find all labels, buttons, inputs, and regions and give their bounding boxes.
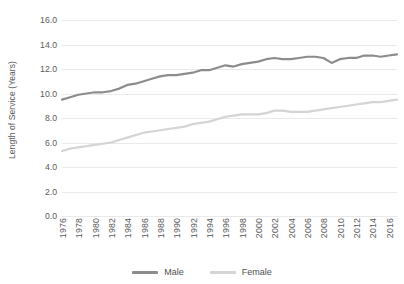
x-axis-tick-label: 1984 [123,218,133,238]
x-axis-tick-label: 2012 [352,218,362,238]
x-axis-tick-label: 2004 [287,218,297,238]
series-container [62,20,397,216]
legend-swatch-icon [132,271,158,274]
y-axis-tick-label: 14.0 [40,40,57,50]
x-axis-tick-label: 1976 [58,218,68,238]
x-axis-tick-label: 1978 [74,218,84,238]
x-axis-tick-label: 1986 [140,218,150,238]
y-axis-tick-label: 0.0 [45,211,57,221]
x-axis-tick-label: 2014 [368,218,378,238]
series-line-female [62,100,397,151]
x-axis-tick-label: 1982 [107,218,117,238]
y-axis-tick-label: 12.0 [40,64,57,74]
x-axis-tick-label: 1988 [156,218,166,238]
x-axis-tick-labels: 1976197819801982198419861988199019921994… [62,218,397,260]
legend-label: Male [164,267,184,277]
y-axis-tick-labels: 16.014.012.010.08.06.04.02.00.0 [22,20,60,216]
y-axis-tick-label: 6.0 [45,138,57,148]
x-axis-tick-label: 2002 [270,218,280,238]
x-axis-tick-label: 2010 [336,218,346,238]
y-axis-tick-label: 16.0 [40,15,57,25]
x-axis-tick-label: 1980 [91,218,101,238]
y-axis-title: Length of Service (Years) [0,0,24,220]
x-axis-tick-label: 2000 [254,218,264,238]
y-axis-title-text: Length of Service (Years) [7,61,17,159]
x-axis-tick-label: 1998 [238,218,248,238]
x-axis-tick-label: 1990 [172,218,182,238]
line-chart: Length of Service (Years) 16.014.012.010… [0,0,404,284]
plot-area [62,20,397,216]
series-line-male [62,54,397,99]
x-axis-tick-label: 2006 [303,218,313,238]
chart-legend: MaleFemale [0,262,404,282]
x-axis-tick-label: 2016 [385,218,395,238]
legend-swatch-icon [210,271,236,274]
x-axis-tick-label: 1994 [205,218,215,238]
y-axis-tick-label: 8.0 [45,113,57,123]
y-axis-tick-label: 10.0 [40,89,57,99]
legend-item-male[interactable]: Male [132,267,184,277]
legend-item-female[interactable]: Female [210,267,272,277]
y-axis-tick-label: 4.0 [45,162,57,172]
gridline [62,216,397,217]
x-axis-tick-label: 1996 [221,218,231,238]
x-axis-tick-label: 1992 [189,218,199,238]
x-axis-tick-label: 2008 [319,218,329,238]
legend-label: Female [242,267,272,277]
y-axis-tick-label: 2.0 [45,187,57,197]
